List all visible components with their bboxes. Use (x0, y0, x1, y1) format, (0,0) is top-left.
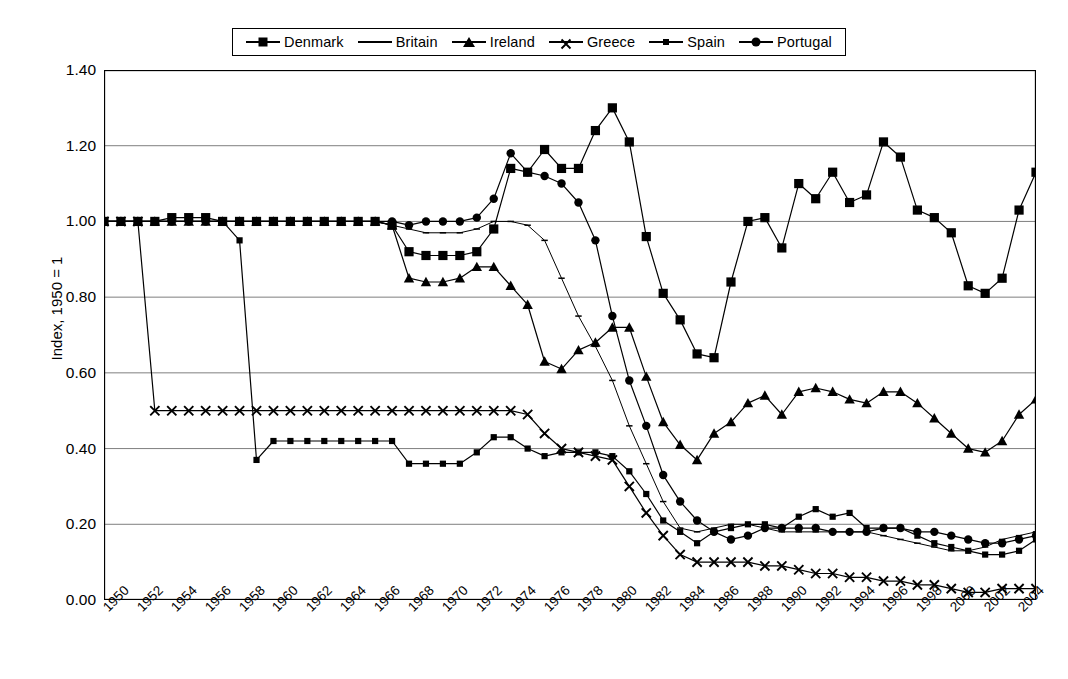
legend-label: Spain (687, 34, 725, 50)
legend-item-portugal: Portugal (739, 29, 832, 55)
y-tick-label: 0.60 (66, 364, 96, 382)
legend-item-britain: Britain (358, 29, 438, 55)
legend-item-ireland: Ireland (452, 29, 535, 55)
legend-item-spain: Spain (649, 29, 725, 55)
y-tick-label: 1.40 (66, 61, 96, 79)
legend-marker-plain-line-icon (358, 35, 392, 49)
y-tick-label: 0.20 (66, 515, 96, 533)
series-spain (104, 221, 1036, 554)
legend-marker-circle-icon (739, 35, 773, 49)
legend-marker-square-large-icon (246, 35, 280, 49)
legend-label: Portugal (777, 34, 832, 50)
legend-item-greece: Greece (549, 29, 635, 55)
legend-marker-square-small-icon (649, 35, 683, 49)
plot-area (104, 70, 1036, 600)
legend-label: Greece (587, 34, 635, 50)
y-tick-label: 0.80 (66, 288, 96, 306)
series-britain (104, 221, 1036, 550)
y-tick-label: 0.00 (66, 591, 96, 609)
legend-label: Ireland (490, 34, 535, 50)
chart-legend: Denmark Britain Ireland Greece (232, 28, 846, 56)
legend-marker-cross-icon (549, 35, 583, 49)
legend-label: Britain (396, 34, 438, 50)
y-axis-tick-labels: 1.401.201.000.800.600.400.200.00 (0, 70, 96, 600)
x-axis-tick-labels: 1950195219541956195819601962196419661968… (104, 604, 1036, 679)
series-portugal (104, 153, 1036, 543)
chart-figure: Denmark Britain Ireland Greece (0, 0, 1068, 679)
y-tick-label: 0.40 (66, 440, 96, 458)
y-tick-label: 1.00 (66, 212, 96, 230)
legend-item-denmark: Denmark (246, 29, 344, 55)
legend-label: Denmark (284, 34, 344, 50)
series-ireland (104, 221, 1036, 460)
legend-marker-triangle-icon (452, 35, 486, 49)
y-tick-label: 1.20 (66, 137, 96, 155)
